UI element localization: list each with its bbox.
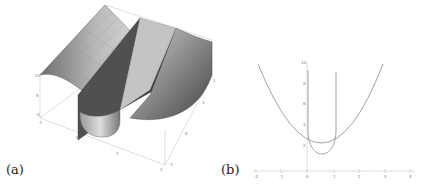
b-y-tick-2: 2 (303, 143, 306, 148)
b-y-tick-6: 6 (303, 101, 306, 106)
y-tick--1: -1 (169, 162, 173, 167)
curve-plot: -2 -1 0 1 2 3 4 2 4 6 8 10 (215, 0, 422, 190)
b-y-tick-10: 10 (301, 60, 307, 65)
panel-label-a: (a) (6, 162, 24, 177)
y-tick-0: 0 (185, 131, 188, 136)
b-x-tick-4: 4 (409, 174, 412, 179)
b-y-tick-4: 4 (303, 122, 306, 127)
x-tick-2: 2 (160, 167, 163, 172)
b-y-tick-8: 8 (303, 81, 306, 86)
surface-plot: 10 5 0 -1 0 1 2 -1 0 1 2 (0, 0, 215, 190)
z-tick-10: 10 (35, 73, 41, 78)
y-tick-1: 1 (202, 100, 205, 105)
outer-parabola (258, 64, 383, 143)
b-x-tick-2: 2 (358, 174, 361, 179)
x-tick--1: -1 (38, 120, 42, 125)
panel-label-b: (b) (221, 162, 239, 177)
panel-b: -2 -1 0 1 2 3 4 2 4 6 8 10 (b) (215, 0, 422, 190)
b-x-tick--2: -2 (254, 174, 258, 179)
b-x-tick-1: 1 (333, 174, 336, 179)
b-x-tick--1: -1 (279, 174, 283, 179)
z-tick-5: 5 (36, 93, 39, 98)
b-x-tick-3: 3 (384, 174, 387, 179)
z-tick-0: 0 (37, 112, 40, 117)
b-x-tick-0: 0 (306, 174, 309, 179)
panel-a: 10 5 0 -1 0 1 2 -1 0 1 2 (a) (0, 0, 215, 190)
x-tick-1: 1 (116, 151, 119, 156)
